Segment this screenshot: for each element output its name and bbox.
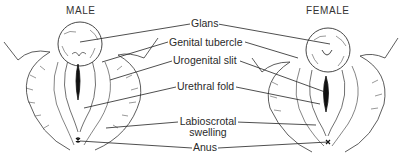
label-anus: Anus <box>192 142 218 153</box>
label-glans: Glans <box>190 18 219 29</box>
label-labioscrotal-line2: swelling <box>179 127 237 138</box>
label-urogenital-slit: Urogenital slit <box>172 55 238 66</box>
diagram: MALE FEMALE Glans Genital tubercle Uroge… <box>0 0 402 160</box>
label-labioscrotal-swelling: Labioscrotal swelling <box>178 116 238 138</box>
label-urethral-fold: Urethral fold <box>176 81 235 92</box>
male-title: MALE <box>66 5 96 16</box>
label-genital-tubercle: Genital tubercle <box>168 37 244 48</box>
female-title: FEMALE <box>306 5 350 16</box>
male-figure <box>4 22 158 150</box>
